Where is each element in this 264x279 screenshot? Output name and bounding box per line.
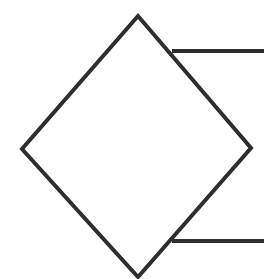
line-drawing-svg — [0, 0, 264, 279]
diamond-shape — [22, 16, 251, 277]
figure-canvas — [0, 0, 264, 279]
